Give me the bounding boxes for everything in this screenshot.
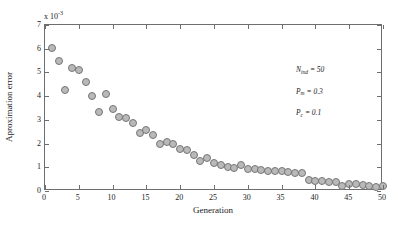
x-axis-tick bbox=[180, 185, 181, 189]
y-axis-tick bbox=[45, 96, 49, 97]
data-point bbox=[298, 169, 306, 177]
x-axis-tick-label: 30 bbox=[243, 193, 251, 202]
x-axis-tick-top bbox=[282, 25, 283, 29]
data-point bbox=[95, 108, 103, 116]
y-axis-tick-right bbox=[377, 96, 381, 97]
annotation-p-c: Pc = 0.1 bbox=[296, 109, 324, 117]
y-axis-tick-label: 0 bbox=[30, 186, 41, 195]
data-point bbox=[48, 44, 56, 52]
data-point bbox=[88, 92, 96, 100]
x-axis-tick-top bbox=[180, 25, 181, 29]
x-axis-tick bbox=[315, 185, 316, 189]
x-axis-tick-label: 50 bbox=[378, 193, 386, 202]
y-axis-tick bbox=[45, 25, 49, 26]
annotation-p-m: Pm = 0.3 bbox=[296, 88, 324, 96]
data-point bbox=[55, 57, 63, 65]
figure-container: x 10-3 Aproximation error 05101520253035… bbox=[0, 0, 398, 227]
y-axis-tick-label: 3 bbox=[30, 114, 41, 123]
y-axis-tick-right bbox=[377, 25, 381, 26]
x-axis-tick bbox=[214, 185, 215, 189]
x-axis-tick bbox=[45, 185, 46, 189]
y-axis-tick-right bbox=[377, 49, 381, 50]
annotation-p-m-symbol: P bbox=[296, 87, 301, 96]
x-axis-tick bbox=[79, 185, 80, 189]
x-axis-tick-label: 40 bbox=[310, 193, 318, 202]
x-axis-tick-top bbox=[315, 25, 316, 29]
y-axis-title: Aproximation error bbox=[2, 24, 16, 190]
y-axis-tick-right bbox=[377, 144, 381, 145]
parameter-annotations: Nind = 50 Pm = 0.3 Pc = 0.1 bbox=[296, 66, 324, 117]
annotation-p-c-subscript: c bbox=[301, 112, 303, 118]
data-point bbox=[109, 105, 117, 113]
x-axis-tick-top bbox=[383, 25, 384, 29]
plot-area bbox=[44, 24, 382, 190]
y-exponent-prefix: x 10 bbox=[44, 12, 58, 21]
data-point bbox=[102, 90, 110, 98]
y-axis-tick bbox=[45, 191, 49, 192]
x-axis-tick-label: 35 bbox=[277, 193, 285, 202]
y-exponent-value: -3 bbox=[58, 10, 63, 16]
y-axis-tick-label: 7 bbox=[30, 20, 41, 29]
x-axis-tick-top bbox=[79, 25, 80, 29]
annotation-n-ind-subscript: ind bbox=[301, 69, 308, 75]
scatter-series bbox=[45, 25, 381, 189]
x-axis-tick-top bbox=[146, 25, 147, 29]
x-axis-tick bbox=[349, 185, 350, 189]
data-point bbox=[129, 119, 137, 127]
annotation-p-m-value: = 0.3 bbox=[305, 87, 323, 96]
y-axis-exponent-multiplier: x 10-3 bbox=[44, 10, 63, 21]
x-axis-tick bbox=[146, 185, 147, 189]
x-axis-title: Generation bbox=[44, 205, 382, 215]
annotation-p-m-subscript: m bbox=[301, 90, 305, 96]
y-axis-tick bbox=[45, 167, 49, 168]
x-axis-tick-label: 20 bbox=[175, 193, 183, 202]
y-axis-tick-right bbox=[377, 191, 381, 192]
data-point bbox=[149, 131, 157, 139]
x-axis-tick-top bbox=[214, 25, 215, 29]
x-axis-tick-label: 15 bbox=[141, 193, 149, 202]
y-axis-tick-right bbox=[377, 120, 381, 121]
y-axis-tick-label: 4 bbox=[30, 91, 41, 100]
y-axis-tick-label: 6 bbox=[30, 43, 41, 52]
x-axis-tick bbox=[282, 185, 283, 189]
annotation-p-c-symbol: P bbox=[296, 108, 301, 117]
data-point bbox=[75, 66, 83, 74]
y-axis-tick bbox=[45, 120, 49, 121]
x-axis-tick-label: 45 bbox=[344, 193, 352, 202]
x-axis-tick bbox=[383, 185, 384, 189]
y-axis-tick-right bbox=[377, 167, 381, 168]
x-axis-tick-label: 5 bbox=[76, 193, 80, 202]
x-axis-tick-top bbox=[248, 25, 249, 29]
x-axis-tick-label: 0 bbox=[42, 193, 46, 202]
y-axis-tick-label: 1 bbox=[30, 162, 41, 171]
y-axis-tick bbox=[45, 49, 49, 50]
y-axis-tick bbox=[45, 72, 49, 73]
x-axis-tick bbox=[113, 185, 114, 189]
data-point bbox=[82, 78, 90, 86]
x-axis-tick-label: 10 bbox=[108, 193, 116, 202]
y-axis-title-text: Aproximation error bbox=[4, 72, 14, 142]
data-point bbox=[61, 86, 69, 94]
y-axis-tick-right bbox=[377, 72, 381, 73]
y-axis-tick-label: 5 bbox=[30, 67, 41, 76]
annotation-n-ind: Nind = 50 bbox=[296, 66, 324, 74]
annotation-p-c-value: = 0.1 bbox=[303, 108, 321, 117]
y-axis-tick bbox=[45, 144, 49, 145]
x-axis-tick bbox=[248, 185, 249, 189]
x-axis-tick-label: 25 bbox=[209, 193, 217, 202]
annotation-n-ind-value: = 50 bbox=[308, 65, 324, 74]
y-axis-tick-label: 2 bbox=[30, 138, 41, 147]
x-axis-tick-top bbox=[349, 25, 350, 29]
x-axis-title-text: Generation bbox=[193, 205, 233, 215]
x-axis-tick-top bbox=[113, 25, 114, 29]
